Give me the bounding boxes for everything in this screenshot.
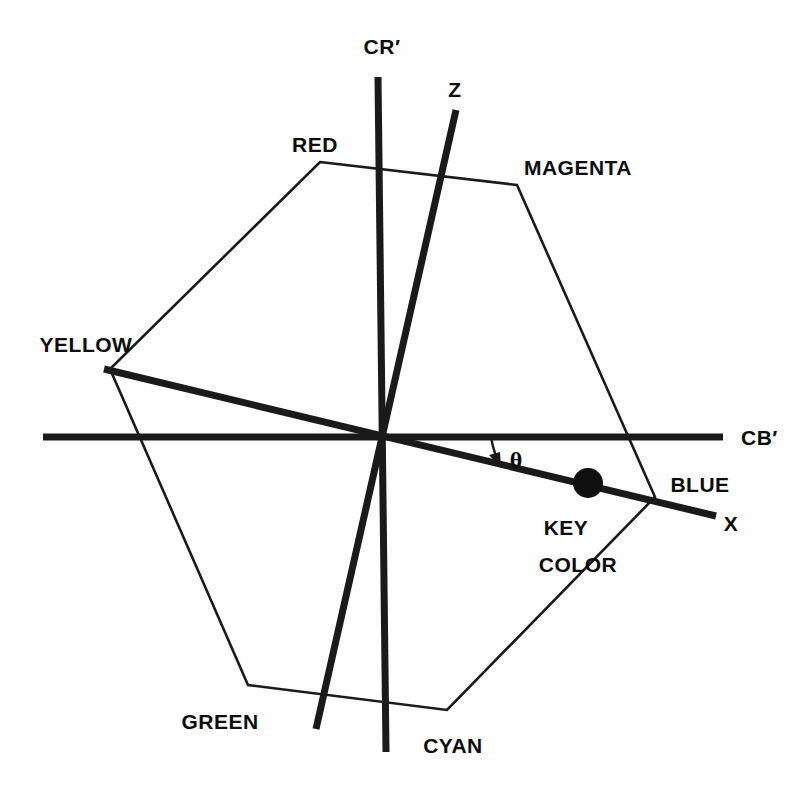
- diagram-background: [0, 0, 811, 810]
- theta-label: θ: [510, 447, 523, 473]
- cb-axis-label: CB′: [741, 426, 778, 449]
- chrominance-plane-diagram: CR′ CB′ Z X θ RED MAGENTA YELLOW BLUE GR…: [0, 0, 811, 810]
- key-color-label-line1: KEY: [544, 516, 589, 539]
- vertex-label-red: RED: [292, 133, 338, 156]
- key-color-point: [573, 468, 603, 498]
- vertex-label-yellow: YELLOW: [40, 333, 133, 356]
- z-axis-label: Z: [448, 78, 461, 101]
- cr-axis-label: CR′: [364, 35, 401, 58]
- vertex-label-blue: BLUE: [670, 473, 729, 496]
- key-color-label-line2: COLOR: [539, 553, 617, 576]
- x-axis-label: X: [724, 512, 739, 535]
- diagram-canvas: CR′ CB′ Z X θ RED MAGENTA YELLOW BLUE GR…: [0, 0, 811, 810]
- vertex-label-cyan: CYAN: [423, 734, 483, 757]
- vertex-label-green: GREEN: [181, 710, 258, 733]
- vertex-label-magenta: MAGENTA: [524, 156, 632, 179]
